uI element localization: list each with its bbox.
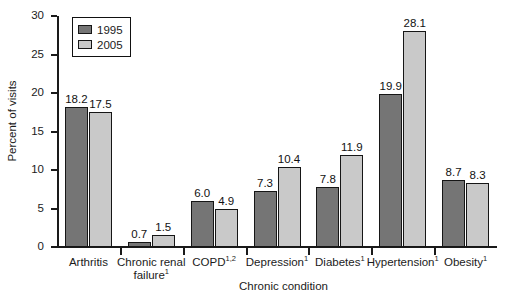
y-tick-label-text: 10 [18,164,44,175]
bar-1995-1 [128,242,151,247]
footnote-marker: 1 [360,254,364,263]
y-tick-label: 5 [18,203,44,214]
y-tick-label: 10 [18,164,44,175]
x-tick-mark [183,248,185,255]
x-tick-mark [246,248,248,255]
chart-legend: 1995 2005 [72,17,131,57]
y-tick-label: 20 [18,87,44,98]
bar-value-label: 10.4 [274,153,304,165]
y-tick-label: 25 [18,49,44,60]
y-tick-label-text: 0 [18,241,44,252]
y-tick-label: 15 [18,126,44,137]
x-tick-mark [371,248,373,255]
y-tick-label-text: 30 [18,10,44,21]
bar-value-label: 11.9 [337,141,367,153]
dark-gray-swatch-icon [78,25,92,34]
chart-screenshot: Percent of visits 302520151050 18.217.50… [0,0,507,300]
y-tick-label: 30 [18,10,44,21]
footnote-marker: 1 [483,254,487,263]
bar-2005-1 [152,235,175,247]
bar-2005-3 [278,167,301,247]
footnote-marker: 1,2 [226,254,236,263]
bar-value-label: 17.5 [85,98,115,110]
bar-1995-2 [191,201,214,247]
x-tick-mark [308,248,310,255]
legend-item-1995: 1995 [78,22,125,37]
y-tick-label-text: 20 [18,87,44,98]
y-tick-label: 0 [18,241,44,252]
bar-value-label: 28.1 [400,17,430,29]
legend-label: 2005 [97,39,123,51]
bar-value-label: 19.9 [376,80,406,92]
light-gray-swatch-icon [78,40,92,49]
bar-value-label: 7.3 [250,177,280,189]
bar-2005-6 [466,183,489,247]
bar-2005-0 [89,112,112,247]
bar-value-label: 1.5 [148,221,178,233]
bar-2005-5 [403,31,426,247]
y-tick-label-text: 5 [18,203,44,214]
x-tick-mark [120,248,122,255]
bar-2005-2 [215,209,238,247]
bar-1995-6 [442,180,465,247]
x-axis-title: Chronic condition [0,280,507,292]
y-axis-title: Percent of visits [6,56,18,186]
category-label-line: Obesity1 [428,256,503,269]
bar-1995-5 [379,94,402,247]
bar-value-label: 8.3 [463,169,493,181]
bar-1995-3 [254,191,277,247]
category-label-6: Obesity1 [428,256,503,269]
bar-1995-0 [65,107,88,247]
bar-1995-4 [316,187,339,247]
legend-label: 1995 [97,24,123,36]
y-tick-label-text: 25 [18,49,44,60]
bar-value-label: 7.8 [313,173,343,185]
bar-2005-4 [340,155,363,247]
legend-item-2005: 2005 [78,37,125,52]
bar-value-label: 4.9 [211,195,241,207]
y-tick-label-text: 15 [18,126,44,137]
footnote-marker: 1 [165,267,169,276]
